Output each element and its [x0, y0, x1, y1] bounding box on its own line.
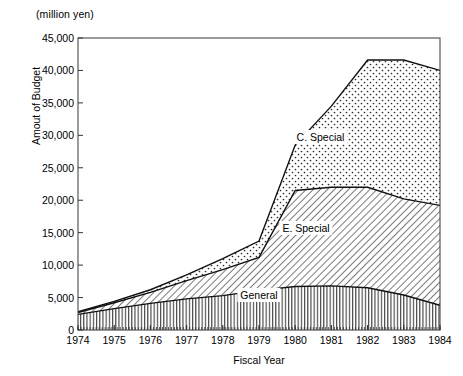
series-label-general: General [237, 288, 280, 302]
series-label-e-special: E. Special [279, 221, 332, 235]
plot-canvas [0, 0, 463, 376]
budget-area-chart: (million yen) Amout of Budget Fiscal Yea… [0, 0, 463, 376]
series-label-c-special: C. Special [294, 130, 348, 144]
y-axis-ticks [78, 38, 83, 330]
x-axis-minor-ticks [78, 327, 440, 330]
